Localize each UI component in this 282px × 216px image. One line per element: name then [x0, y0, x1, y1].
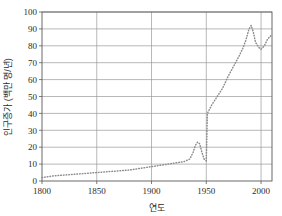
tick-marks	[39, 12, 261, 184]
y-tick-label: 70	[28, 58, 38, 68]
y-axis-title: 인구증가 (백만 명/년)	[3, 58, 13, 136]
y-tick-label: 30	[28, 126, 38, 136]
gridlines	[42, 12, 272, 181]
x-tick-label: 1850	[88, 186, 107, 196]
y-tick-label: 40	[28, 109, 38, 119]
data-series-line	[42, 26, 271, 178]
y-tick-label: 80	[28, 41, 38, 51]
x-axis-title: 연도	[149, 203, 165, 213]
x-tick-label: 2000	[252, 186, 271, 196]
x-tick-label: 1800	[33, 186, 52, 196]
data-series-layer	[42, 26, 271, 178]
chart-canvas: 0102030405060708090100 18001850190019502…	[0, 0, 282, 216]
x-tick-label: 1900	[143, 186, 162, 196]
y-tick-label: 20	[28, 142, 38, 152]
y-tick-label: 50	[28, 92, 38, 102]
x-axis-tick-labels: 18001850190019502000	[33, 186, 271, 196]
y-tick-label: 90	[28, 24, 38, 34]
y-tick-label: 10	[28, 159, 38, 169]
y-axis-tick-labels: 0102030405060708090100	[24, 7, 38, 186]
y-tick-label: 100	[24, 7, 38, 17]
x-tick-label: 1950	[197, 186, 216, 196]
population-growth-chart: 0102030405060708090100 18001850190019502…	[0, 0, 282, 216]
y-tick-label: 60	[28, 75, 38, 85]
y-tick-label: 0	[33, 176, 38, 186]
